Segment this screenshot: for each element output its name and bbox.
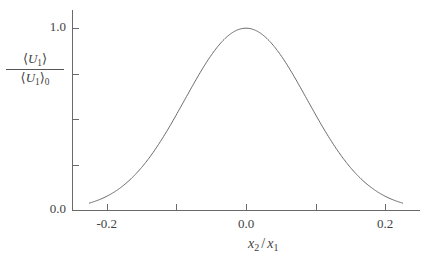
x-axis-title: x2/x1 [248, 236, 368, 253]
y-axis-title-denominator: ⟨U1⟩0 [6, 69, 64, 87]
data-curve [89, 28, 402, 203]
x-axis-title-separator: / [259, 236, 267, 251]
x-axis-tick-label-2: 0.2 [355, 216, 415, 232]
x-axis-tick-label-1: 0.0 [216, 216, 276, 232]
y-axis-tick-label-0: 1.0 [26, 19, 66, 35]
y-axis-denominator-outer-subscript: 0 [45, 77, 50, 87]
y-axis-title: ⟨U1⟩ ⟨U1⟩0 [6, 52, 64, 88]
plot-area [72, 10, 420, 210]
x-axis-title-subscript-2: 1 [273, 242, 278, 253]
y-axis-numerator-variable: U [28, 51, 37, 66]
chart-figure: ⟨U1⟩ ⟨U1⟩0 x2/x1 1.00.0 -0.20.00.2 [0, 0, 438, 264]
y-axis-title-numerator: ⟨U1⟩ [6, 52, 64, 69]
y-axis-denominator-variable: U [26, 70, 35, 85]
angle-bracket-close-icon: ⟩ [42, 51, 47, 66]
x-axis-tick-label-0: -0.2 [77, 216, 137, 232]
y-axis-tick-label-1: 0.0 [26, 201, 66, 217]
curve-layer [72, 10, 420, 211]
